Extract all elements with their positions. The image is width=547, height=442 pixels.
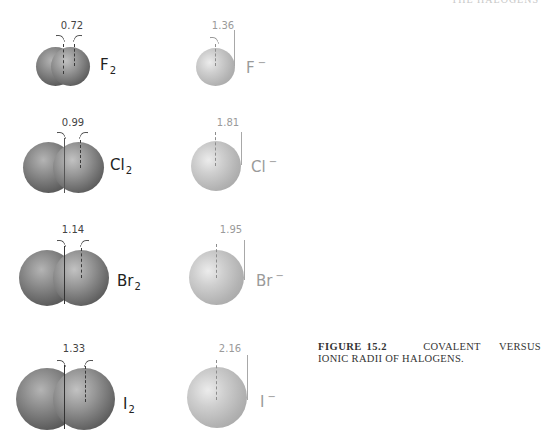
bracket-right [72, 35, 82, 42]
covalent-formula: I2 [123, 395, 135, 415]
bracket-left [56, 360, 66, 367]
radius-edge-line [234, 30, 235, 66]
bond-midline [63, 44, 64, 74]
nucleus-line [215, 132, 216, 166]
bond-midline [64, 246, 65, 304]
bracket-left [209, 37, 219, 44]
bracket-right [83, 360, 93, 367]
covalent-formula: F2 [100, 56, 116, 76]
covalent-radius-value: 0.99 [62, 117, 84, 128]
covalent-radius-value: 1.14 [62, 224, 84, 235]
covalent-formula: Br2 [117, 272, 141, 292]
nucleus-line [85, 366, 86, 402]
f-atom-right [51, 47, 90, 86]
ionic-formula: I− [260, 391, 276, 411]
radius-edge-line [247, 355, 248, 400]
ionic-formula: Cl− [251, 156, 277, 176]
bond-midline [64, 138, 65, 193]
nucleus-line [74, 44, 75, 66]
nucleus-line [80, 140, 81, 168]
bracket-right [79, 240, 89, 247]
radius-edge-line [244, 240, 245, 280]
radius-edge-line [241, 132, 242, 165]
halogen-radii-figure: 0.72 F2 1.36 F− 0.99 Cl2 [0, 0, 547, 442]
ionic-radius-value: 2.16 [219, 343, 241, 354]
i-ion-sphere [187, 367, 247, 428]
figure-caption: FIGURE 15.2 COVALENT VERSUS IONIC RADII … [318, 341, 541, 365]
cl-ion-sphere [191, 141, 241, 191]
nucleus-line [81, 248, 82, 278]
ionic-formula: F− [246, 57, 266, 77]
covalent-radius-value: 0.72 [61, 20, 83, 31]
ionic-formula: Br− [256, 270, 284, 290]
bracket-left [56, 240, 66, 247]
covalent-formula: Cl2 [110, 156, 132, 176]
caption-line-1: COVALENT VERSUS [423, 341, 541, 352]
ionic-radius-value: 1.36 [212, 20, 234, 31]
nucleus-line [215, 44, 216, 66]
bracket-left [55, 35, 65, 42]
ionic-radius-value: 1.81 [217, 117, 239, 128]
cl-atom-right [53, 142, 104, 193]
ionic-radius-value: 1.95 [220, 224, 242, 235]
nucleus-line [216, 244, 217, 278]
caption-line-2: IONIC RADII OF HALOGENS. [318, 353, 541, 365]
bracket-right [78, 132, 88, 139]
nucleus-line [216, 360, 217, 400]
bond-midline [64, 365, 65, 429]
figure-number: FIGURE 15.2 [318, 341, 387, 352]
bracket-left [56, 132, 66, 139]
i-atom-right [53, 368, 115, 430]
covalent-radius-value: 1.33 [63, 343, 85, 354]
